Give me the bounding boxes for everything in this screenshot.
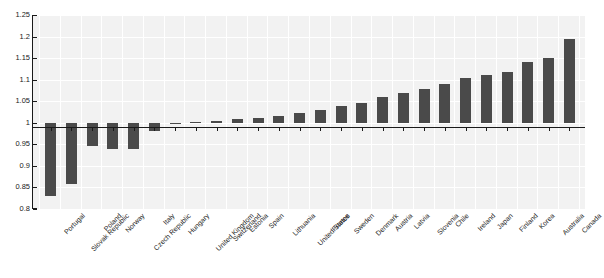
- bar: [66, 123, 77, 185]
- x-axis-tick-mark: [569, 128, 570, 131]
- x-axis-tick-mark: [92, 128, 93, 131]
- bar: [439, 84, 450, 123]
- x-axis-tick-mark: [51, 128, 52, 131]
- y-axis-tick-label: 1.15: [0, 54, 30, 62]
- y-axis-tick-label-text: 1.1: [0, 76, 30, 84]
- gridline-vertical: [143, 15, 144, 209]
- gridline-vertical: [558, 15, 559, 209]
- y-axis-tick-label-text: 0.95: [0, 140, 30, 148]
- bar: [232, 119, 243, 122]
- x-axis-tick-mark: [549, 128, 550, 131]
- x-axis-tick-mark: [113, 128, 114, 131]
- x-axis-tick-mark: [320, 128, 321, 131]
- x-axis-tick-mark: [217, 128, 218, 131]
- x-axis-category-label: France: [331, 212, 352, 233]
- y-axis-tick-label: 1.2: [0, 33, 30, 41]
- y-axis-tick-label: 0.9: [0, 162, 30, 170]
- gridline-vertical: [164, 15, 165, 209]
- y-axis-tick-label-text: 1: [0, 119, 30, 127]
- x-axis-tick-mark: [507, 128, 508, 131]
- y-axis-tick-mark: [33, 209, 37, 210]
- y-axis-line: [32, 15, 33, 209]
- x-axis-tick-mark: [486, 128, 487, 131]
- x-axis-category-label: Sweden: [353, 212, 377, 236]
- x-axis-tick-mark: [279, 128, 280, 131]
- gridline-vertical: [454, 15, 455, 209]
- x-axis-category-label: Portugal: [62, 212, 86, 236]
- bar: [294, 113, 305, 122]
- bar: [211, 121, 222, 123]
- gridline-vertical: [517, 15, 518, 209]
- y-axis-tick-label: 1.25: [0, 11, 30, 19]
- gridline-vertical: [496, 15, 497, 209]
- x-axis-tick-mark: [383, 128, 384, 131]
- y-axis-tick-label: 1.05: [0, 97, 30, 105]
- y-axis-tick-mark: [33, 123, 37, 124]
- x-axis-category-label: Korea: [537, 212, 556, 231]
- gridline-vertical: [60, 15, 61, 209]
- x-axis-tick-mark: [300, 128, 301, 131]
- y-axis-tick-mark: [33, 166, 37, 167]
- y-axis-tick-mark: [33, 15, 37, 16]
- bar: [253, 118, 264, 123]
- bar: [377, 97, 388, 123]
- gridline-vertical: [247, 15, 248, 209]
- y-axis-tick-label-text: 0.85: [0, 183, 30, 191]
- gridline-vertical: [537, 15, 538, 209]
- x-axis-category-label: Spain: [267, 212, 285, 230]
- gridline-vertical: [226, 15, 227, 209]
- x-axis-tick-mark: [362, 128, 363, 131]
- bar: [502, 72, 513, 123]
- gridline-vertical: [434, 15, 435, 209]
- y-axis-tick-label: 0.85: [0, 183, 30, 191]
- gridline-vertical: [81, 15, 82, 209]
- x-axis-tick-mark: [258, 128, 259, 131]
- y-axis-tick-mark: [33, 101, 37, 102]
- gridline-vertical: [475, 15, 476, 209]
- y-axis-tick-label-text: 1.05: [0, 97, 30, 105]
- baseline-axis: [33, 127, 585, 128]
- bar: [273, 116, 284, 123]
- bar: [481, 75, 492, 122]
- x-axis-tick-mark: [445, 128, 446, 131]
- gridline-vertical: [184, 15, 185, 209]
- x-axis-category-label: Latvia: [413, 212, 432, 231]
- bar: [45, 123, 56, 196]
- bar: [170, 123, 181, 124]
- x-axis-category-label: Japan: [496, 212, 515, 231]
- x-axis-tick-mark: [196, 128, 197, 131]
- bar: [460, 78, 471, 123]
- y-axis-tick-mark: [33, 80, 37, 81]
- y-axis-tick-label: 1.1: [0, 76, 30, 84]
- x-axis-category-label: Australia: [561, 212, 586, 237]
- gridline-vertical: [351, 15, 352, 209]
- bar: [190, 122, 201, 123]
- x-axis-category-label: Finland: [518, 212, 540, 234]
- y-axis-tick-label-text: 1.25: [0, 11, 30, 19]
- x-axis-tick-mark: [134, 128, 135, 131]
- bar: [543, 58, 554, 123]
- gridline-vertical: [122, 15, 123, 209]
- bar: [398, 93, 409, 122]
- y-axis-tick-mark: [33, 187, 37, 188]
- x-axis-category-label: Lithuania: [291, 212, 317, 238]
- gridline-vertical: [267, 15, 268, 209]
- bar: [564, 39, 575, 123]
- bar: [315, 110, 326, 123]
- x-axis-tick-mark: [175, 128, 176, 131]
- x-axis-tick-mark: [466, 128, 467, 131]
- gridline-vertical: [205, 15, 206, 209]
- y-axis-tick-label: 0.95: [0, 140, 30, 148]
- gridline-vertical: [309, 15, 310, 209]
- y-axis-tick-label-text: 0.9: [0, 162, 30, 170]
- gridline-vertical: [39, 15, 40, 209]
- gridline-vertical: [579, 15, 580, 209]
- y-axis-tick-label: 0.8: [0, 205, 30, 213]
- gridline-vertical: [330, 15, 331, 209]
- bar: [356, 103, 367, 123]
- bar: [336, 106, 347, 122]
- y-axis-tick-label-text: 0.8: [0, 205, 30, 213]
- bar: [522, 62, 533, 122]
- y-axis-tick-mark: [33, 144, 37, 145]
